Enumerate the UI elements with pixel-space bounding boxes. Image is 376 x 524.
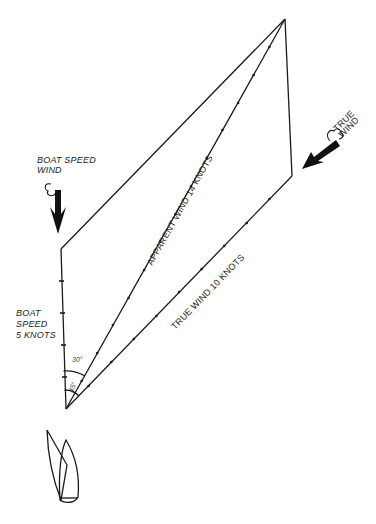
true-wind-arrow-icon: [302, 129, 343, 169]
boat-speed-label: BOAT SPEED 5 KNOTS: [16, 308, 56, 340]
svg-text:SPEED: SPEED: [16, 319, 48, 329]
svg-text:BOAT: BOAT: [16, 308, 42, 318]
angle-arc-30: [64, 371, 86, 376]
boat-speed-wind-arrow-icon: [45, 184, 66, 234]
svg-text:WIND: WIND: [37, 165, 62, 175]
true-wind-arrow-label: TRUE WIND: [331, 108, 361, 139]
svg-text:5 KNOTS: 5 KNOTS: [16, 330, 56, 340]
boat-speed-wind-label: BOAT SPEED WIND: [37, 155, 96, 175]
sailboat-icon: [47, 430, 78, 502]
true-wind-label: TRUE WIND 10 KNOTS: [169, 252, 246, 331]
angle-markers: 30° 45°: [64, 356, 86, 396]
boat-speed-vector: [61, 249, 66, 409]
svg-text:BOAT SPEED: BOAT SPEED: [37, 155, 96, 165]
angle-label-30: 30°: [72, 356, 83, 363]
wind-vector-diagram: 30° 45° APPARENT WIND 14 KNOTS TRUE WIND…: [0, 0, 376, 524]
apparent-wind-label: APPARENT WIND 14 KNOTS: [145, 153, 215, 267]
parallelogram-right-side: [285, 19, 292, 176]
